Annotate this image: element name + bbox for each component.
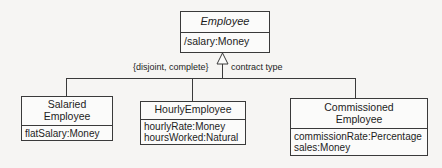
attribute-salary: /salary:Money [184, 36, 266, 48]
attribute-hourly-rate: hourlyRate:Money [144, 121, 242, 132]
generalization-branch-salaried [66, 78, 67, 97]
class-name-employee: Employee [181, 12, 269, 32]
attribute-hours-worked: hoursWorked:Natural [144, 132, 242, 143]
attribute-compartment-commissioned-employee: commissionRate:Percentage sales:Money [291, 128, 427, 157]
attribute-compartment-employee: /salary:Money [181, 32, 269, 52]
generalization-stem-line [222, 64, 223, 79]
uml-class-diagram: Employee /salary:Money {disjoint, comple… [0, 0, 442, 168]
attribute-compartment-salaried-employee: flatSalary:Money [22, 125, 112, 142]
attribute-commission-rate: commissionRate:Percentage [294, 131, 424, 142]
attribute-sales: sales:Money [294, 142, 424, 153]
class-name-commissioned-employee: Commissioned Employee [291, 99, 427, 128]
class-name-hourly-employee: HourlyEmployee [141, 102, 245, 119]
generalization-discriminator-label: contract type [231, 62, 283, 72]
class-box-employee[interactable]: Employee /salary:Money [180, 11, 270, 53]
generalization-branch-commissioned [355, 78, 356, 99]
attribute-flat-salary: flatSalary:Money [25, 128, 109, 139]
class-box-hourly-employee[interactable]: HourlyEmployee hourlyRate:Money hoursWor… [140, 101, 246, 145]
class-box-commissioned-employee[interactable]: Commissioned Employee commissionRate:Per… [290, 98, 428, 156]
class-name-salaried-employee: Salaried Employee [22, 97, 112, 125]
class-box-salaried-employee[interactable]: Salaried Employee flatSalary:Money [21, 96, 113, 141]
attribute-compartment-hourly-employee: hourlyRate:Money hoursWorked:Natural [141, 119, 245, 146]
generalization-triangle-icon [216, 52, 229, 65]
generalization-branch-hourly [192, 78, 193, 102]
generalization-constraint-label: {disjoint, complete} [133, 62, 209, 72]
generalization-horizontal-bar [66, 78, 356, 79]
